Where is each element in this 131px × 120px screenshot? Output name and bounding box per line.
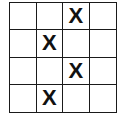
grid-cell[interactable] bbox=[37, 3, 64, 30]
grid-cell[interactable] bbox=[90, 30, 117, 57]
grid-cell[interactable]: X bbox=[37, 30, 64, 57]
grid-cell[interactable] bbox=[37, 58, 64, 85]
grid-cell[interactable]: X bbox=[37, 85, 64, 112]
grid-cell[interactable] bbox=[63, 85, 90, 112]
grid-cell[interactable] bbox=[10, 85, 37, 112]
grid-cell[interactable] bbox=[63, 30, 90, 57]
grid-cell[interactable] bbox=[10, 3, 37, 30]
grid-board: X X X X bbox=[9, 2, 117, 113]
grid-cell[interactable] bbox=[90, 85, 117, 112]
grid-cell[interactable]: X bbox=[63, 58, 90, 85]
grid-cell[interactable] bbox=[10, 58, 37, 85]
grid-cell[interactable]: X bbox=[63, 3, 90, 30]
grid-cell[interactable] bbox=[90, 3, 117, 30]
grid-cell[interactable] bbox=[10, 30, 37, 57]
grid-cell[interactable] bbox=[90, 58, 117, 85]
